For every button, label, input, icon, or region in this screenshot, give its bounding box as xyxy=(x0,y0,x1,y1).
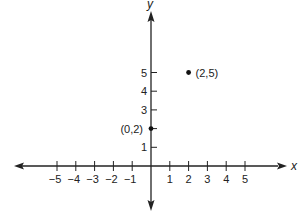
data-point xyxy=(149,126,154,131)
x-axis-label: x xyxy=(290,159,298,173)
x-tick-label: 1 xyxy=(167,173,173,185)
points: (0,2)(2,5) xyxy=(120,67,218,135)
x-tick-label: −1 xyxy=(124,173,137,185)
y-tick-label: 5 xyxy=(141,67,147,79)
x-tick-label: −2 xyxy=(105,173,118,185)
x-tick-label: −3 xyxy=(86,173,99,185)
x-tick-label: 5 xyxy=(242,173,248,185)
x-axis-right-arrow xyxy=(277,163,287,170)
point-label: (2,5) xyxy=(196,67,219,79)
y-tick-label: 1 xyxy=(141,141,147,153)
point-label: (0,2) xyxy=(120,123,143,135)
y-tick-label: 3 xyxy=(141,104,147,116)
x-tick-label: 2 xyxy=(186,173,192,185)
x-tick-label: 4 xyxy=(223,173,229,185)
x-tick-label: 3 xyxy=(204,173,210,185)
x-tick-label: −4 xyxy=(68,173,81,185)
y-axis-label: y xyxy=(146,0,154,11)
coordinate-plane: −5−4−3−2−1123451345 (0,2)(2,5) x y xyxy=(0,0,302,213)
ticks: −5−4−3−2−1123451345 xyxy=(49,67,248,186)
y-tick-label: 4 xyxy=(141,85,147,97)
data-point xyxy=(186,70,191,75)
x-tick-label: −5 xyxy=(49,173,62,185)
